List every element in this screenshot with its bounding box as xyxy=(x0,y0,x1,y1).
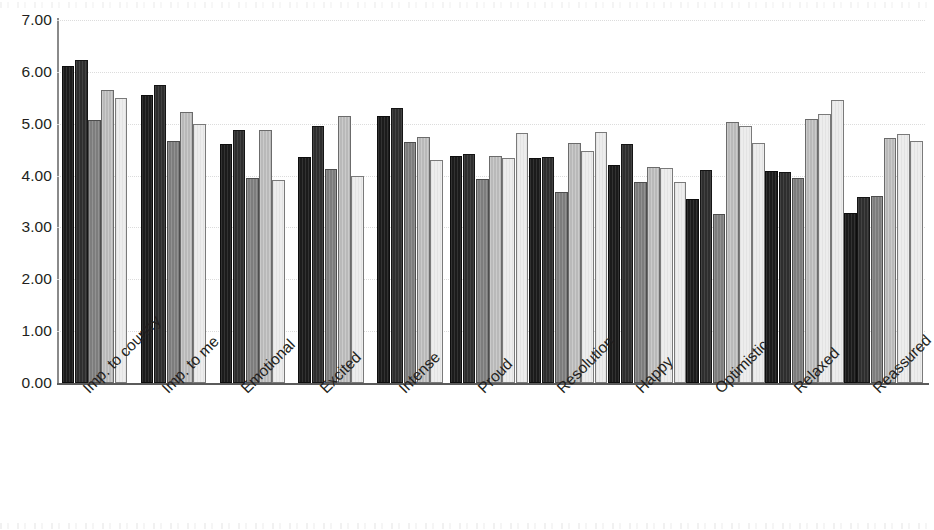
bar xyxy=(542,157,555,383)
bar xyxy=(62,66,75,383)
bar xyxy=(871,196,884,383)
bar xyxy=(489,156,502,383)
bar xyxy=(417,137,430,383)
bar xyxy=(450,156,463,383)
bar-group xyxy=(608,20,687,383)
bar xyxy=(818,114,831,383)
bar xyxy=(831,100,844,383)
bar xyxy=(792,178,805,383)
x-axis-category-labels: Imp. to countryImp. to meEmotionalExcite… xyxy=(0,385,931,525)
y-axis-tick-label: 7.00 xyxy=(0,12,52,28)
bar xyxy=(634,182,647,383)
bar xyxy=(884,138,897,383)
bar xyxy=(529,158,542,383)
bar xyxy=(516,133,529,383)
bar-group xyxy=(765,20,844,383)
bar xyxy=(325,169,338,383)
bar xyxy=(463,154,476,383)
bar xyxy=(686,199,699,383)
y-axis-tick-labels: 7.006.005.004.003.002.001.000.00 xyxy=(0,20,52,383)
bar xyxy=(476,179,489,383)
bar xyxy=(391,108,404,383)
bar xyxy=(555,192,568,383)
bar xyxy=(312,126,325,383)
y-axis-tick-label: 4.00 xyxy=(0,168,52,184)
bar xyxy=(101,90,114,383)
bar xyxy=(377,116,390,383)
bar-group xyxy=(686,20,765,383)
bar xyxy=(674,182,687,383)
y-axis-tick-label: 2.00 xyxy=(0,271,52,287)
scan-artifact-top xyxy=(0,2,931,8)
bar-group xyxy=(298,20,363,383)
bar xyxy=(88,120,101,383)
y-axis-tick-label: 3.00 xyxy=(0,219,52,235)
bar xyxy=(713,214,726,383)
bar xyxy=(621,144,634,383)
bar xyxy=(180,112,193,383)
bar xyxy=(805,119,818,383)
bar xyxy=(259,130,272,383)
bar-group xyxy=(220,20,285,383)
bar-group xyxy=(844,20,923,383)
bar xyxy=(700,170,713,383)
y-axis-tick-label: 5.00 xyxy=(0,116,52,132)
y-axis-tick-label: 1.00 xyxy=(0,323,52,339)
bar-group xyxy=(62,20,127,383)
y-axis-tick-label: 6.00 xyxy=(0,64,52,80)
bar xyxy=(338,116,351,383)
bar xyxy=(75,60,88,383)
bar xyxy=(298,157,311,383)
bar xyxy=(568,143,581,383)
bar xyxy=(154,85,167,383)
bar-groups xyxy=(57,20,925,383)
bar xyxy=(779,172,792,383)
bar xyxy=(502,158,515,383)
bar xyxy=(220,144,233,383)
bar xyxy=(404,142,417,383)
bar xyxy=(857,197,870,383)
bar xyxy=(246,178,259,383)
bar-group xyxy=(450,20,529,383)
bar xyxy=(167,141,180,383)
bar-group xyxy=(529,20,608,383)
bar xyxy=(660,168,673,383)
bar-group xyxy=(377,20,442,383)
bar xyxy=(647,167,660,383)
bar xyxy=(844,213,857,383)
bar xyxy=(726,122,739,383)
bar xyxy=(233,130,246,383)
plot-area xyxy=(57,20,925,383)
